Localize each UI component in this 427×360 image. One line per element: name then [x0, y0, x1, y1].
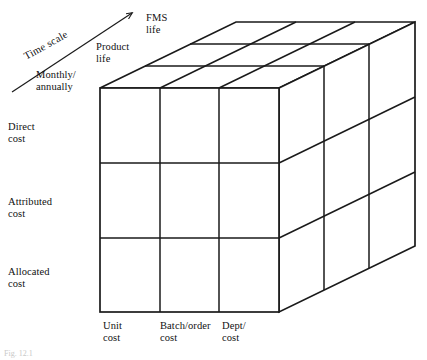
figure-caption: Fig. 12.1 [4, 349, 33, 358]
axis-label-dept-cost: Dept/ cost [222, 320, 246, 344]
figure-container: Direct cost Attributed cost Allocated co… [0, 0, 427, 360]
axis-label-attributed-cost: Attributed cost [8, 196, 52, 220]
axis-label-product-life: Product life [96, 41, 129, 65]
axis-label-direct-cost: Direct cost [8, 121, 35, 145]
axis-label-fms-life: FMS life [146, 12, 167, 36]
axis-label-unit-cost: Unit cost [103, 320, 122, 344]
axis-label-monthly-annually: Monthly/ annually [36, 69, 76, 93]
cube-diagram-svg [0, 0, 427, 360]
axis-label-allocated-cost: Allocated cost [8, 266, 50, 290]
axis-label-batch-order-cost: Batch/order cost [160, 320, 211, 344]
front-face [100, 88, 279, 312]
